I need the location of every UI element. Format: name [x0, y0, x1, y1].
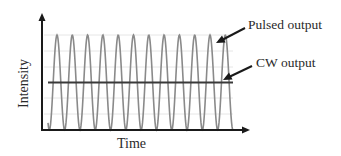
x-axis-arrow-icon	[242, 127, 250, 134]
pulsed-annotation-arrow-line	[222, 28, 245, 40]
x-axis-label: Time	[117, 137, 146, 151]
y-axis-label: Intensity	[17, 59, 31, 108]
y-axis-arrow-icon	[39, 13, 46, 21]
pulsed-output-label: Pulsed output	[248, 18, 322, 32]
cw-output-label: CW output	[256, 56, 315, 70]
cw-annotation-arrow-line	[229, 66, 252, 77]
